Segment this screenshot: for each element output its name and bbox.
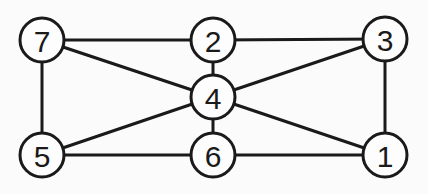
edge-2-3 — [213, 39, 385, 40]
node-6: 6 — [191, 133, 235, 177]
node-3: 3 — [363, 17, 407, 61]
node-4: 4 — [191, 75, 235, 119]
node-1: 1 — [363, 133, 407, 177]
node-5: 5 — [20, 133, 64, 177]
node-label: 6 — [205, 140, 222, 173]
node-7: 7 — [20, 18, 64, 62]
node-label: 1 — [377, 140, 394, 173]
node-2: 2 — [191, 18, 235, 62]
node-label: 7 — [34, 25, 51, 58]
edge-4-5 — [42, 97, 213, 155]
node-label: 4 — [205, 82, 222, 115]
edge-4-1 — [213, 97, 385, 155]
node-label: 2 — [205, 25, 222, 58]
graph-svg: 7234561 — [0, 0, 428, 194]
node-label: 5 — [34, 140, 51, 173]
node-label: 3 — [377, 24, 394, 57]
edge-3-4 — [213, 39, 385, 97]
edge-7-4 — [42, 40, 213, 97]
graph-diagram: 7234561 — [0, 0, 428, 194]
